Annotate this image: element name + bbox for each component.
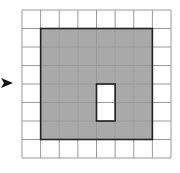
empty-cell	[152, 10, 171, 29]
hole-cell	[97, 84, 116, 103]
empty-cell	[22, 140, 41, 159]
shaded-cell	[134, 29, 153, 48]
shaded-cell	[115, 84, 134, 103]
arrow-head-icon	[1, 78, 13, 88]
shaded-cell	[41, 66, 60, 85]
shaded-cell	[59, 29, 78, 48]
empty-cell	[78, 10, 97, 29]
shaded-cell	[134, 47, 153, 66]
shaded-cell	[97, 29, 116, 48]
empty-cell	[22, 29, 41, 48]
arrow	[1, 78, 13, 88]
shaded-cell	[115, 121, 134, 140]
shaded-cell	[134, 103, 153, 122]
shaded-cell	[97, 66, 116, 85]
empty-cell	[59, 140, 78, 159]
hole-cell	[97, 103, 116, 122]
shaded-cell	[41, 84, 60, 103]
empty-cell	[152, 29, 171, 48]
shaded-cell	[41, 29, 60, 48]
empty-cell	[152, 47, 171, 66]
empty-cell	[152, 84, 171, 103]
empty-cell	[152, 66, 171, 85]
empty-cell	[41, 10, 60, 29]
empty-cell	[97, 140, 116, 159]
empty-cell	[152, 140, 171, 159]
empty-cell	[22, 47, 41, 66]
empty-cell	[22, 66, 41, 85]
empty-cell	[22, 121, 41, 140]
empty-cell	[78, 140, 97, 159]
empty-cell	[97, 10, 116, 29]
empty-cell	[22, 84, 41, 103]
shaded-cell	[115, 103, 134, 122]
empty-cell	[134, 10, 153, 29]
shaded-cell	[97, 121, 116, 140]
shaded-cell	[78, 103, 97, 122]
empty-cell	[59, 10, 78, 29]
empty-cell	[152, 103, 171, 122]
shaded-cell	[59, 103, 78, 122]
empty-cell	[41, 140, 60, 159]
empty-cell	[134, 140, 153, 159]
shaded-cell	[78, 29, 97, 48]
shaded-cell	[59, 121, 78, 140]
empty-cell	[22, 10, 41, 29]
grid-diagram	[0, 0, 180, 173]
shaded-cell	[41, 121, 60, 140]
shaded-cell	[41, 47, 60, 66]
shaded-cell	[78, 121, 97, 140]
shaded-cell	[59, 66, 78, 85]
shaded-cell	[78, 84, 97, 103]
shaded-cell	[59, 47, 78, 66]
shaded-cell	[78, 66, 97, 85]
shaded-cell	[59, 84, 78, 103]
shaded-cell	[115, 29, 134, 48]
shaded-cell	[134, 66, 153, 85]
empty-cell	[22, 103, 41, 122]
shaded-cell	[78, 47, 97, 66]
shaded-cell	[41, 103, 60, 122]
empty-cell	[152, 121, 171, 140]
shaded-cell	[97, 47, 116, 66]
empty-cell	[115, 10, 134, 29]
shaded-cell	[115, 47, 134, 66]
shaded-cell	[115, 66, 134, 85]
shaded-cell	[134, 84, 153, 103]
shaded-cell	[134, 121, 153, 140]
empty-cell	[115, 140, 134, 159]
